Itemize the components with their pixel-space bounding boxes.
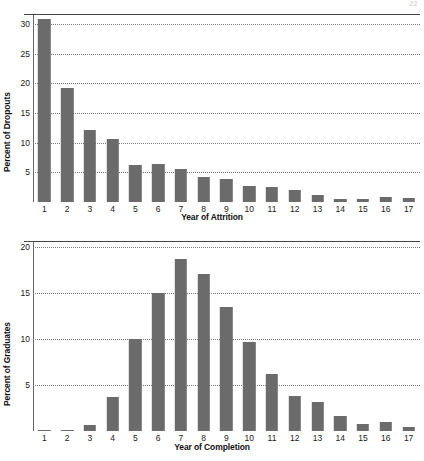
bar[interactable] bbox=[129, 339, 141, 431]
bar[interactable] bbox=[152, 293, 164, 431]
y-tick-label: 5 bbox=[25, 168, 30, 177]
bar[interactable] bbox=[106, 139, 118, 202]
plot-area-attrition: 51015202530 1234567891011121314151617 bbox=[33, 14, 420, 202]
bar[interactable] bbox=[311, 402, 323, 431]
bar[interactable] bbox=[334, 199, 346, 202]
y-axis-title-attrition: Percent of Dropouts bbox=[2, 92, 12, 172]
bar[interactable] bbox=[61, 88, 73, 202]
bar-slot[interactable]: 6 bbox=[147, 241, 170, 431]
bar[interactable] bbox=[243, 186, 255, 202]
bar-slot[interactable]: 9 bbox=[215, 241, 238, 431]
page-canvas: 22 Percent of Dropouts 51015202530 12345… bbox=[0, 0, 424, 461]
bar-slot[interactable]: 7 bbox=[170, 14, 193, 202]
bar-slot[interactable]: 1 bbox=[33, 14, 56, 202]
bar-slot[interactable]: 11 bbox=[261, 241, 284, 431]
bar[interactable] bbox=[220, 179, 232, 202]
bar[interactable] bbox=[243, 342, 255, 431]
bar[interactable] bbox=[357, 199, 369, 202]
bar[interactable] bbox=[61, 430, 73, 431]
bar[interactable] bbox=[198, 177, 210, 203]
bar-slot[interactable]: 10 bbox=[238, 14, 261, 202]
bar-slot[interactable]: 14 bbox=[329, 14, 352, 202]
chart-attrition: Percent of Dropouts 51015202530 12345678… bbox=[0, 4, 424, 226]
bar[interactable] bbox=[402, 198, 414, 202]
bar[interactable] bbox=[152, 164, 164, 202]
bar-slot[interactable]: 17 bbox=[397, 241, 420, 431]
y-tick-label: 15 bbox=[21, 109, 30, 118]
y-tick-label: 30 bbox=[21, 20, 30, 29]
bar[interactable] bbox=[380, 197, 392, 202]
bar-slot[interactable]: 6 bbox=[147, 14, 170, 202]
bar[interactable] bbox=[334, 416, 346, 431]
y-tick-label: 5 bbox=[25, 381, 30, 390]
y-tick-label: 20 bbox=[21, 79, 30, 88]
y-tick-label: 20 bbox=[21, 242, 30, 251]
bar-slot[interactable]: 1 bbox=[33, 241, 56, 431]
bar-series-completion: 1234567891011121314151617 bbox=[33, 241, 420, 431]
bar[interactable] bbox=[84, 130, 96, 202]
bar-slot[interactable]: 15 bbox=[352, 14, 375, 202]
y-tick-label: 15 bbox=[21, 288, 30, 297]
bar-slot[interactable]: 8 bbox=[192, 241, 215, 431]
bar[interactable] bbox=[220, 307, 232, 431]
x-axis-title-completion: Year of Completion bbox=[0, 442, 424, 452]
bar[interactable] bbox=[289, 190, 301, 202]
bar[interactable] bbox=[266, 374, 278, 431]
bar-series-attrition: 1234567891011121314151617 bbox=[33, 14, 420, 202]
bar[interactable] bbox=[106, 397, 118, 431]
bar[interactable] bbox=[289, 396, 301, 431]
bar-slot[interactable]: 3 bbox=[79, 14, 102, 202]
bar-slot[interactable]: 11 bbox=[261, 14, 284, 202]
bar[interactable] bbox=[38, 430, 50, 431]
bar[interactable] bbox=[357, 424, 369, 431]
bar-slot[interactable]: 8 bbox=[192, 14, 215, 202]
bar-slot[interactable]: 9 bbox=[215, 14, 238, 202]
bar-slot[interactable]: 15 bbox=[352, 241, 375, 431]
bar[interactable] bbox=[129, 165, 141, 202]
y-axis-title-completion: Percent of Graduates bbox=[2, 322, 12, 406]
bar[interactable] bbox=[175, 169, 187, 202]
bar[interactable] bbox=[175, 259, 187, 431]
bar-slot[interactable]: 3 bbox=[79, 241, 102, 431]
bar-slot[interactable]: 2 bbox=[56, 241, 79, 431]
y-tick-label: 10 bbox=[21, 335, 30, 344]
bar[interactable] bbox=[311, 195, 323, 202]
x-axis-baseline bbox=[24, 14, 420, 15]
bar-slot[interactable]: 14 bbox=[329, 241, 352, 431]
bar[interactable] bbox=[402, 427, 414, 431]
bar-slot[interactable]: 16 bbox=[374, 14, 397, 202]
bar[interactable] bbox=[380, 422, 392, 431]
bar-slot[interactable]: 13 bbox=[306, 241, 329, 431]
plot-area-completion: 5101520 1234567891011121314151617 bbox=[33, 241, 420, 431]
bar-slot[interactable]: 5 bbox=[124, 241, 147, 431]
bar-slot[interactable]: 16 bbox=[374, 241, 397, 431]
chart-completion: Percent of Graduates 5101520 12345678910… bbox=[0, 232, 424, 461]
x-axis-title-attrition: Year of Attrition bbox=[0, 212, 424, 222]
bar-slot[interactable]: 10 bbox=[238, 241, 261, 431]
bar[interactable] bbox=[198, 274, 210, 431]
bar[interactable] bbox=[266, 187, 278, 202]
bar-slot[interactable]: 4 bbox=[101, 241, 124, 431]
bar-slot[interactable]: 4 bbox=[101, 14, 124, 202]
bar[interactable] bbox=[84, 425, 96, 431]
bar-slot[interactable]: 13 bbox=[306, 14, 329, 202]
bar-slot[interactable]: 5 bbox=[124, 14, 147, 202]
bar-slot[interactable]: 7 bbox=[170, 241, 193, 431]
bar-slot[interactable]: 12 bbox=[283, 241, 306, 431]
x-axis-baseline bbox=[24, 241, 420, 242]
y-tick-label: 25 bbox=[21, 49, 30, 58]
y-tick-label: 10 bbox=[21, 138, 30, 147]
bar[interactable] bbox=[38, 19, 50, 202]
bar-slot[interactable]: 12 bbox=[283, 14, 306, 202]
bar-slot[interactable]: 17 bbox=[397, 14, 420, 202]
bar-slot[interactable]: 2 bbox=[56, 14, 79, 202]
